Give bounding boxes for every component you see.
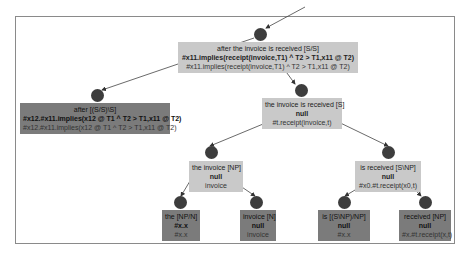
node-category: is [(S\NP)/NP] <box>321 212 367 221</box>
node-category: the invoice [NP] <box>192 163 240 172</box>
node-semantics: invoice <box>192 181 240 190</box>
node-box-snp[interactable]: is received [S\NP] null #x0.#t.receipt(x… <box>355 161 421 192</box>
node-category: is received [S\NP] <box>358 163 418 172</box>
tree-node-sentence[interactable] <box>295 84 308 97</box>
node-category: the [NP/N] <box>165 212 197 221</box>
node-box-is[interactable]: is [(S\NP)/NP] null #x.x <box>318 210 370 241</box>
node-bold-semantics: null <box>243 221 273 230</box>
node-semantics: #x.#t.receipt(x,t) <box>402 230 448 239</box>
node-box-received[interactable]: received [NP] null #x.#t.receipt(x,t) <box>399 210 451 241</box>
node-bold-semantics: null <box>265 109 339 118</box>
node-box-after[interactable]: after [(S/S)\S] #x12.#x11.implies(x12 @ … <box>20 103 170 134</box>
tree-node-is[interactable] <box>338 196 351 209</box>
node-box-the[interactable]: the [NP/N] #x.x #x.x <box>162 210 200 241</box>
node-semantics: #t.receipt(invoice,t) <box>265 118 339 127</box>
tree-node-snp[interactable] <box>382 146 395 159</box>
node-category: received [NP] <box>402 212 448 221</box>
node-semantics: #x11.implies(receipt(invoice,T1) ^ T2 > … <box>181 62 355 71</box>
tree-node-received[interactable] <box>419 196 432 209</box>
node-semantics: #x.x <box>321 230 367 239</box>
node-box-sentence[interactable]: the invoice is received [S] null #t.rece… <box>262 98 342 129</box>
node-box-np[interactable]: the invoice [NP] null invoice <box>189 161 243 192</box>
node-bold-semantics: null <box>321 221 367 230</box>
node-semantics: #x0.#t.receipt(x0,t) <box>358 181 418 190</box>
tree-node-np[interactable] <box>205 146 218 159</box>
node-semantics: #x.x <box>165 230 197 239</box>
node-box-root[interactable]: after the invoice is received [S/S] #x11… <box>178 42 358 73</box>
node-semantics: invoice <box>243 230 273 239</box>
node-category: the invoice is received [S] <box>265 100 339 109</box>
tree-node-root[interactable] <box>254 28 267 41</box>
tree-node-after[interactable] <box>91 89 104 102</box>
tree-node-invoice[interactable] <box>250 196 263 209</box>
node-category: after [(S/S)\S] <box>23 105 167 114</box>
node-box-invoice[interactable]: invoice [N] null invoice <box>240 210 276 241</box>
node-bold-semantics: #x.x <box>165 221 197 230</box>
node-semantics: #x12.#x11.implies(x12 @ T1 ^ T2 > T1,x11… <box>23 123 167 132</box>
node-bold-semantics: null <box>192 172 240 181</box>
node-bold-semantics: null <box>358 172 418 181</box>
node-bold-semantics: #x11.implies(receipt(invoice,T1) ^ T2 > … <box>181 53 355 62</box>
node-bold-semantics: #x12.#x11.implies(x12 @ T1 ^ T2 > T1,x11… <box>23 114 167 123</box>
tree-node-the[interactable] <box>174 196 187 209</box>
node-category: invoice [N] <box>243 212 273 221</box>
node-category: after the invoice is received [S/S] <box>181 44 355 53</box>
node-bold-semantics: null <box>402 221 448 230</box>
